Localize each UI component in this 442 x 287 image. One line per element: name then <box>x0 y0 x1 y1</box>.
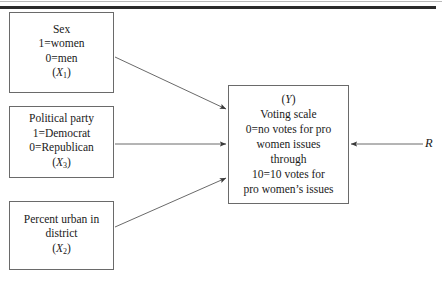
box-percent-urban: Percent urban in district (X2) <box>9 201 114 270</box>
path-diagram-figure: Sex 1=women 0=men (X1) Political party 1… <box>0 0 442 287</box>
box-party-line-0: Political party <box>29 111 94 126</box>
box-urban-variable: (X2) <box>52 241 71 259</box>
box-sex-line-0: Sex <box>53 22 70 37</box>
variable-x1: X1 <box>56 66 67 78</box>
arrow-sex-to-voting <box>115 57 226 109</box>
top-rule-thick <box>0 6 436 9</box>
box-urban-line-0: Percent urban in <box>24 212 99 227</box>
box-party-line-2: 0=Republican <box>29 140 94 155</box>
box-voting-scale: (Y) Voting scale 0=no votes for pro wome… <box>228 85 349 204</box>
variable-x2: X2 <box>56 242 67 254</box>
box-party-line-1: 1=Democrat <box>33 126 91 141</box>
box-sex-line-2: 0=men <box>45 51 77 66</box>
box-voting-line-2: women issues <box>256 137 320 152</box>
top-rule-thin <box>0 1 442 2</box>
box-voting-line-4: 10=10 votes for <box>252 167 325 182</box>
arrow-urban-to-voting <box>115 178 226 227</box>
box-voting-line-5: pro women’s issues <box>243 182 333 197</box>
variable-x3: X3 <box>56 156 67 168</box>
box-voting-line-3: through <box>271 152 307 167</box>
residual-label: R <box>425 136 433 151</box>
box-political-party: Political party 1=Democrat 0=Republican … <box>9 106 114 178</box>
variable-y: Y <box>285 93 291 105</box>
box-sex-variable: (X1) <box>52 65 71 83</box>
box-voting-variable: (Y) <box>281 92 295 107</box>
box-party-variable: (X3) <box>52 155 71 173</box>
box-urban-line-1: district <box>46 226 78 241</box>
box-sex: Sex 1=women 0=men (X1) <box>9 12 114 93</box>
box-voting-line-0: Voting scale <box>260 107 316 122</box>
box-sex-line-1: 1=women <box>38 36 84 51</box>
box-voting-line-1: 0=no votes for pro <box>246 122 331 137</box>
